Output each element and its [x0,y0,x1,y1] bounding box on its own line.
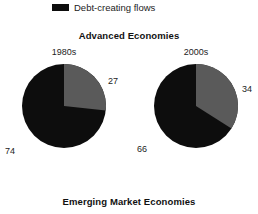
pie-panel-1980s: 1980s 27 74 [5,44,123,174]
chart-title: Advanced Economies [0,30,258,41]
pie-chart-figure: Debt-creating flows Advanced Economies 1… [0,0,258,214]
pie-value-other-left: 27 [108,76,118,86]
legend-swatch-icon [52,4,69,11]
chart-caption: Emerging Market Economies [0,196,258,207]
pie-heading-left: 1980s [5,47,123,57]
pie-slice-other-left [64,64,106,111]
pie-chart-right [154,64,238,148]
pie-value-debt-creating-right: 66 [137,144,147,154]
legend-label: Debt-creating flows [74,2,155,13]
pie-value-debt-creating-left: 74 [5,146,15,156]
chart-legend: Debt-creating flows [52,2,155,13]
pie-value-other-right: 34 [242,84,252,94]
pie-heading-right: 2000s [137,47,255,57]
pie-panel-2000s: 2000s 34 66 [137,44,255,174]
pie-chart-left [22,64,106,148]
